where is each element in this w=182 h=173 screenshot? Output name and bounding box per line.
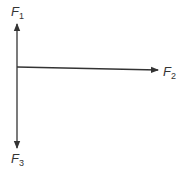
label-f2: F2 bbox=[163, 65, 176, 81]
force-diagram bbox=[0, 0, 182, 173]
label-f1: F1 bbox=[11, 5, 24, 21]
vector-f2-arrow bbox=[17, 67, 158, 70]
label-f3: F3 bbox=[11, 152, 24, 168]
